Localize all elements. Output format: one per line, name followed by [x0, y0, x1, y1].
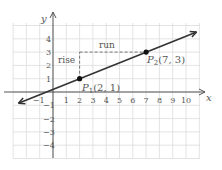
rise-label: rise [58, 55, 75, 65]
y-tick-label: 4 [46, 35, 51, 44]
x-tick-label: 8 [157, 96, 162, 105]
coordinate-plane: −1123456789104321−1−2−3−4 y x rise run P… [0, 0, 222, 170]
p2-coords: (7, 3) [158, 54, 185, 65]
x-axis-label: x [206, 92, 212, 103]
y-tick-label: −2 [43, 115, 55, 124]
x-tick-label: 7 [144, 96, 149, 105]
x-tick-label: 5 [117, 96, 122, 105]
x-tick-label: 1 [64, 96, 69, 105]
y-axis-label: y [40, 13, 47, 24]
y-tick-label: 1 [46, 75, 51, 84]
y-tick-label: 2 [46, 61, 51, 70]
x-tick-label: 3 [90, 96, 95, 105]
p1-label: P1(2, 1) [81, 82, 120, 95]
point-p1 [77, 76, 82, 81]
x-tick-label: 6 [130, 96, 135, 105]
x-tick-label: 4 [104, 96, 109, 105]
x-tick-label: 9 [170, 96, 175, 105]
y-tick-label: −3 [43, 128, 55, 137]
x-tick-label: 10 [181, 96, 191, 105]
y-tick-label: 3 [46, 48, 51, 57]
x-tick-label: 2 [77, 96, 82, 105]
run-label: run [99, 40, 115, 50]
y-tick-label: −1 [43, 101, 55, 110]
y-tick-label: −4 [43, 141, 55, 150]
p1-coords: (2, 1) [93, 82, 120, 93]
